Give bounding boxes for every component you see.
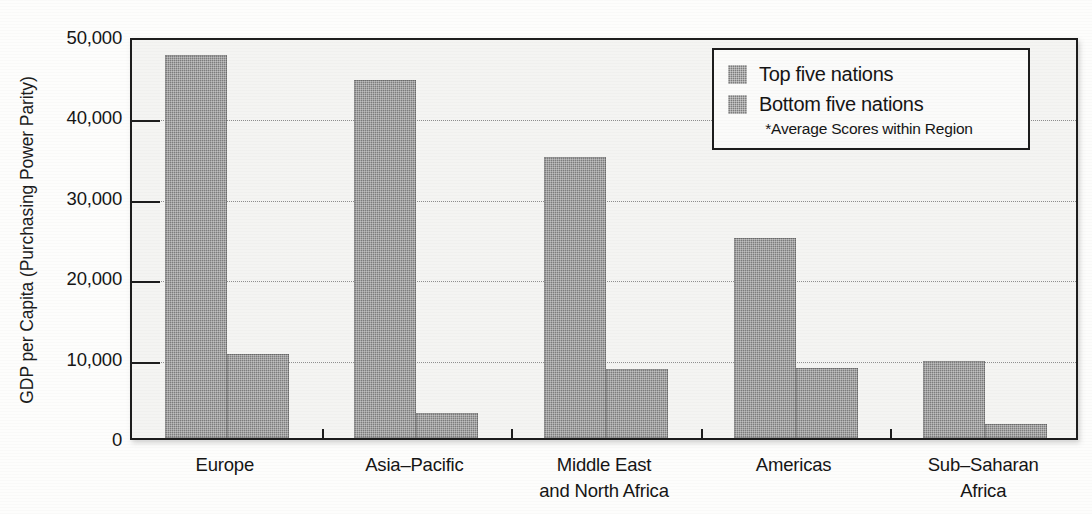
bar bbox=[734, 238, 796, 438]
x-tick-label-line: Americas bbox=[756, 452, 832, 478]
x-tick-label: Europe bbox=[196, 452, 254, 478]
x-tick-label-line: and North Africa bbox=[539, 478, 668, 504]
y-tick-mark bbox=[132, 362, 160, 364]
bar bbox=[796, 368, 858, 438]
legend-label-bottom-five: Bottom five nations bbox=[759, 93, 923, 116]
bar bbox=[606, 369, 668, 438]
x-tick-label: Asia–Pacific bbox=[365, 452, 463, 478]
legend-swatch-icon bbox=[728, 65, 747, 84]
x-tick-mark bbox=[890, 429, 892, 438]
x-tick-mark bbox=[511, 429, 513, 438]
bar bbox=[165, 55, 227, 439]
x-tick-label-line: Asia–Pacific bbox=[365, 452, 463, 478]
y-tick-label: 30,000 bbox=[18, 188, 122, 210]
x-tick-mark bbox=[322, 429, 324, 438]
bar bbox=[544, 157, 606, 438]
legend-label-top-five: Top five nations bbox=[759, 63, 893, 86]
y-tick-label: 40,000 bbox=[18, 107, 122, 129]
bar bbox=[416, 413, 478, 438]
x-tick-label-line: Africa bbox=[928, 478, 1039, 504]
x-tick-label-line: Sub–Saharan bbox=[928, 452, 1039, 478]
y-tick-label: 50,000 bbox=[18, 27, 122, 49]
y-tick-label: 20,000 bbox=[18, 268, 122, 290]
x-tick-label-line: Middle East bbox=[539, 452, 668, 478]
y-tick-label: 0 bbox=[18, 429, 122, 451]
bar bbox=[923, 361, 985, 438]
legend-swatch-icon bbox=[728, 95, 747, 114]
x-axis-tick-labels: EuropeAsia–PacificMiddle Eastand North A… bbox=[130, 452, 1078, 514]
y-tick-mark bbox=[132, 281, 160, 283]
legend-item-top-five: Top five nations bbox=[728, 59, 1014, 89]
legend-item-bottom-five: Bottom five nations bbox=[728, 89, 1014, 119]
y-tick-mark bbox=[132, 201, 160, 203]
bar bbox=[985, 424, 1047, 438]
bar bbox=[227, 354, 289, 438]
y-axis-tick-labels: 010,00020,00030,00040,00050,000 bbox=[18, 0, 122, 514]
chart-legend: Top five nations Bottom five nations *Av… bbox=[712, 48, 1030, 150]
x-tick-label: Middle Eastand North Africa bbox=[539, 452, 668, 504]
y-tick-mark bbox=[132, 120, 160, 122]
x-tick-label: Sub–SaharanAfrica bbox=[928, 452, 1039, 504]
x-tick-label: Americas bbox=[756, 452, 832, 478]
x-tick-mark bbox=[701, 429, 703, 438]
bar bbox=[354, 80, 416, 438]
bar-chart-figure: GDP per Capita (Purchasing Power Parity)… bbox=[0, 0, 1092, 514]
x-tick-label-line: Europe bbox=[196, 452, 254, 478]
y-tick-label: 10,000 bbox=[18, 349, 122, 371]
legend-note: *Average Scores within Region bbox=[728, 120, 1014, 138]
